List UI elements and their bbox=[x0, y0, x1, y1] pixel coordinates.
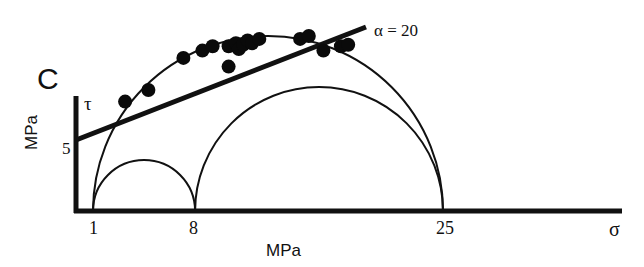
data-point bbox=[252, 32, 266, 46]
x-tick-label-25: 25 bbox=[436, 218, 454, 239]
y-axis-label: MPa bbox=[22, 115, 42, 150]
plot-area bbox=[74, 27, 622, 213]
data-point bbox=[206, 39, 220, 53]
data-point bbox=[141, 83, 155, 97]
y-axis-symbol: τ bbox=[84, 93, 92, 115]
data-point bbox=[118, 95, 132, 109]
panel-label: C bbox=[37, 62, 59, 96]
x-axis-label: MPa bbox=[266, 241, 301, 261]
envelope-label: α = 20 bbox=[374, 21, 418, 41]
mohr-circle-1 bbox=[93, 36, 443, 211]
mohr-circle-3 bbox=[195, 87, 443, 211]
x-tick-label-8: 8 bbox=[189, 218, 198, 239]
mohr-circle-2 bbox=[93, 160, 195, 211]
data-point bbox=[316, 44, 330, 58]
x-axis-symbol: σ bbox=[609, 218, 620, 241]
data-point bbox=[176, 51, 190, 65]
data-point bbox=[341, 38, 355, 52]
y-tick-label-5: 5 bbox=[62, 139, 71, 159]
x-tick-label-1: 1 bbox=[89, 218, 98, 239]
data-point bbox=[222, 60, 236, 74]
data-point bbox=[302, 29, 316, 43]
